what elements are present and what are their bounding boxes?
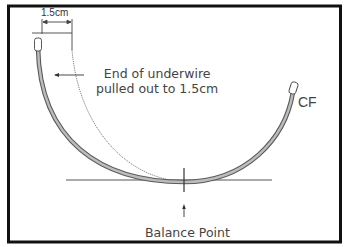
right-end-cap: [288, 81, 298, 95]
left-end-cap: [35, 38, 42, 51]
balance-arrow: [182, 204, 186, 217]
end-arrow: [54, 73, 84, 77]
dimension-label: 1.5cm: [41, 7, 68, 18]
diagram-canvas: 1.5cm End of underwire pulled out to 1.5…: [0, 0, 349, 247]
end-annotation: End of underwire pulled out to 1.5cm: [96, 66, 218, 96]
end-annotation-line2: pulled out to 1.5cm: [96, 81, 218, 96]
underwire: [35, 38, 299, 182]
balance-point-label: Balance Point: [145, 225, 230, 240]
end-annotation-line1: End of underwire: [96, 66, 218, 81]
cf-label: CF: [298, 94, 317, 110]
underwire-diagram: [0, 0, 349, 247]
